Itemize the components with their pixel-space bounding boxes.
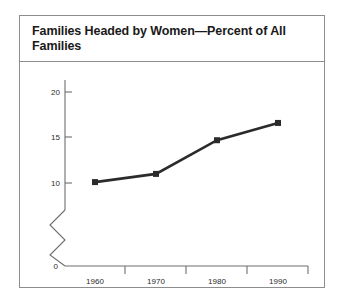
x-tick-label-1960: 1960 bbox=[86, 277, 104, 286]
plot-area: 20 15 10 0 1960 1970 1980 1990 bbox=[20, 62, 326, 289]
data-point-marker-1970 bbox=[153, 171, 159, 177]
chart-title: Families Headed by Women—Percent of All … bbox=[32, 24, 312, 54]
data-point-marker-1960 bbox=[92, 179, 98, 185]
y-tick-label-20: 20 bbox=[51, 88, 60, 97]
data-series-line bbox=[95, 123, 278, 182]
y-axis-break-zigzag bbox=[50, 210, 65, 266]
title-block: Families Headed by Women—Percent of All … bbox=[20, 16, 324, 62]
y-tick-label-15: 15 bbox=[51, 133, 60, 142]
x-tick-label-1980: 1980 bbox=[208, 277, 226, 286]
y-tick-label-0: 0 bbox=[54, 262, 59, 271]
line-chart-svg: 20 15 10 0 1960 1970 1980 1990 bbox=[20, 62, 326, 289]
figure-container: Families Headed by Women—Percent of All … bbox=[0, 0, 344, 304]
x-tick-label-1970: 1970 bbox=[147, 277, 165, 286]
data-point-marker-1990 bbox=[275, 120, 281, 126]
x-tick-label-1990: 1990 bbox=[269, 277, 287, 286]
data-point-marker-1980 bbox=[214, 137, 220, 143]
y-tick-label-10: 10 bbox=[51, 179, 60, 188]
chart-panel: Families Headed by Women—Percent of All … bbox=[19, 15, 325, 288]
